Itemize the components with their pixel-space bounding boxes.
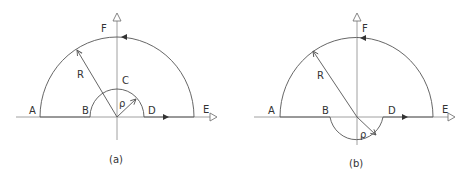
- label-C: C: [122, 75, 129, 86]
- caption-b: (b): [349, 158, 363, 169]
- contour-diagram: A B C D E F R ρ (a) A B D E F R ρ (: [0, 0, 469, 181]
- large-arc-EFA: [280, 37, 433, 117]
- label-rho: ρ: [119, 98, 125, 109]
- direction-arrow-icon: [360, 35, 366, 41]
- panel-b: A B D E F R ρ (b): [254, 13, 455, 169]
- imag-axis-arrow-icon: [113, 13, 121, 21]
- label-A: A: [268, 105, 275, 116]
- direction-arrow-icon: [402, 114, 408, 120]
- label-F: F: [362, 23, 368, 34]
- caption-a: (a): [109, 154, 123, 165]
- imag-axis-arrow-icon: [353, 13, 361, 21]
- label-B: B: [82, 105, 89, 116]
- real-axis-arrow-icon: [210, 113, 217, 121]
- label-E: E: [203, 104, 209, 115]
- panel-a: A B C D E F R ρ (a): [16, 13, 217, 165]
- label-A: A: [29, 105, 36, 116]
- radius-R: [313, 51, 357, 117]
- label-rho: ρ: [360, 129, 366, 140]
- label-D: D: [388, 105, 396, 116]
- label-R: R: [77, 69, 84, 80]
- label-R: R: [317, 70, 324, 81]
- label-D: D: [148, 105, 156, 116]
- direction-arrow-icon: [121, 34, 127, 40]
- direction-arrow-icon: [163, 114, 169, 120]
- label-B: B: [322, 105, 329, 116]
- small-arc-below: [330, 117, 383, 140]
- real-axis-arrow-icon: [448, 113, 455, 121]
- label-E: E: [442, 104, 448, 115]
- label-F: F: [101, 23, 107, 34]
